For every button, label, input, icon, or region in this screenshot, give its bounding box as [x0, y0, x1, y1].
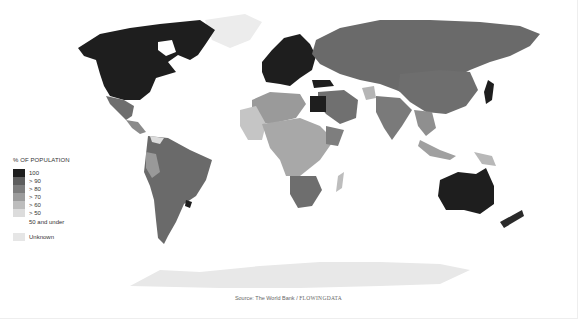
legend-item-50: > 50	[13, 209, 70, 217]
legend-swatch	[13, 169, 25, 177]
legend-swatch	[13, 185, 25, 193]
legend-swatch	[13, 201, 25, 209]
region-australia[interactable]	[438, 168, 494, 214]
region-europe[interactable]	[262, 34, 316, 86]
legend-item-100: 100	[13, 169, 70, 177]
region-new-zealand[interactable]	[500, 210, 524, 228]
world-choropleth-map	[0, 0, 577, 318]
region-central-africa[interactable]	[262, 118, 334, 176]
region-afghanistan[interactable]	[362, 86, 376, 100]
region-central-america[interactable]	[126, 120, 146, 134]
region-southeast-asia[interactable]	[414, 110, 436, 136]
legend-item-90: > 90	[13, 177, 70, 185]
region-antarctica[interactable]	[130, 262, 470, 288]
region-japan[interactable]	[484, 80, 494, 104]
legend-swatch	[13, 233, 25, 241]
legend-label: > 60	[29, 202, 41, 208]
legend-item-80: > 80	[13, 185, 70, 193]
legend-item-70: > 70	[13, 193, 70, 201]
region-madagascar[interactable]	[336, 172, 344, 192]
region-indonesia[interactable]	[418, 140, 456, 160]
legend-swatch	[13, 209, 25, 217]
region-south-america[interactable]	[144, 136, 212, 244]
brand-logo-text: FLOWINGDATA	[299, 295, 342, 301]
legend-label: 100	[29, 170, 39, 176]
legend-label: > 80	[29, 186, 41, 192]
legend-label: > 90	[29, 178, 41, 184]
legend-item-60: > 60	[13, 201, 70, 209]
source-credit: Source: The World Bank / FLOWINGDATA	[0, 295, 577, 301]
region-papua[interactable]	[474, 152, 496, 166]
region-east-africa[interactable]	[326, 126, 344, 146]
region-uruguay[interactable]	[185, 200, 192, 208]
region-egypt[interactable]	[310, 96, 326, 112]
legend-label: > 70	[29, 194, 41, 200]
legend-swatch	[13, 177, 25, 185]
legend-title: % OF POPULATION	[13, 157, 70, 163]
region-southern-africa[interactable]	[290, 176, 322, 208]
legend-item-under-50: 50 and under	[29, 218, 70, 226]
region-turkey[interactable]	[312, 80, 334, 88]
legend-swatch	[13, 193, 25, 201]
source-text: Source: The World Bank /	[235, 295, 299, 301]
region-china[interactable]	[398, 70, 478, 114]
legend: % OF POPULATION 100 > 90 > 80 > 70 > 60 …	[13, 157, 70, 241]
legend-label: Unknown	[29, 234, 54, 240]
legend-label: > 50	[29, 210, 41, 216]
region-north-america[interactable]	[78, 20, 215, 100]
region-india[interactable]	[376, 96, 412, 140]
legend-item-unknown: Unknown	[13, 233, 70, 241]
